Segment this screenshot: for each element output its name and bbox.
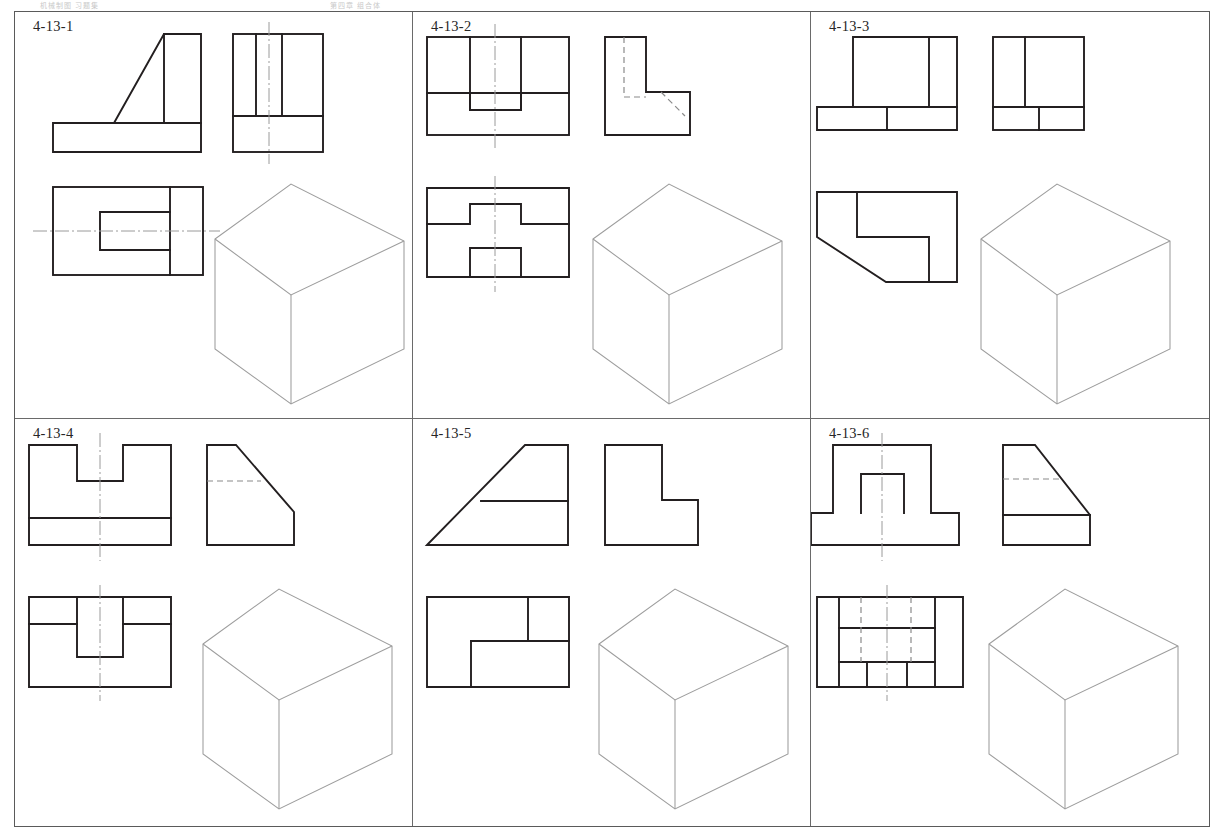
isometric-construction-box-4-13-3 bbox=[981, 184, 1170, 404]
scan-header-left: 机械制图 习题集 bbox=[40, 0, 99, 10]
side-view-4-13-4 bbox=[207, 445, 294, 545]
worksheet-sheet: 4-13-1 bbox=[14, 11, 1210, 827]
exercise-drawing-4-13-1 bbox=[15, 12, 412, 418]
scan-header: 机械制图 习题集 第四章 组合体 bbox=[0, 0, 1224, 11]
side-view-4-13-5 bbox=[605, 445, 698, 545]
isometric-construction-box-4-13-5 bbox=[599, 589, 788, 809]
hidden-line-diagonal bbox=[661, 92, 685, 116]
exercise-cell-4-13-1[interactable]: 4-13-1 bbox=[15, 12, 413, 419]
exercise-drawing-4-13-2 bbox=[413, 12, 810, 418]
scan-header-right: 第四章 组合体 bbox=[330, 0, 381, 10]
side-view-4-13-6 bbox=[1003, 445, 1090, 545]
side-view-4-13-1 bbox=[233, 22, 323, 164]
exercise-drawing-4-13-6 bbox=[811, 419, 1209, 826]
top-view-4-13-5 bbox=[427, 597, 569, 687]
side-view-4-13-2 bbox=[605, 37, 690, 135]
exercise-drawing-4-13-4 bbox=[15, 419, 412, 826]
side-view-4-13-3 bbox=[993, 37, 1084, 130]
exercise-grid: 4-13-1 bbox=[15, 12, 1209, 826]
front-view-4-13-6 bbox=[811, 433, 959, 561]
top-view-4-13-2 bbox=[427, 176, 569, 292]
exercise-cell-4-13-6[interactable]: 4-13-6 bbox=[811, 419, 1209, 826]
exercise-drawing-4-13-5 bbox=[413, 419, 810, 826]
exercise-drawing-4-13-3 bbox=[811, 12, 1209, 418]
exercise-cell-4-13-2[interactable]: 4-13-2 bbox=[413, 12, 811, 419]
isometric-construction-box-4-13-2 bbox=[593, 184, 782, 404]
top-view-4-13-6 bbox=[817, 585, 963, 701]
isometric-construction-box-4-13-4 bbox=[203, 589, 392, 809]
top-view-4-13-4 bbox=[29, 585, 171, 701]
isometric-construction-box-4-13-1 bbox=[215, 184, 404, 404]
exercise-cell-4-13-5[interactable]: 4-13-5 bbox=[413, 419, 811, 826]
exercise-cell-4-13-3[interactable]: 4-13-3 bbox=[811, 12, 1209, 419]
front-view-4-13-4 bbox=[29, 433, 171, 561]
front-view-4-13-1 bbox=[53, 34, 201, 152]
exercise-cell-4-13-4[interactable]: 4-13-4 bbox=[15, 419, 413, 826]
front-view-4-13-2 bbox=[427, 24, 569, 150]
top-view-4-13-3 bbox=[817, 192, 957, 282]
front-view-4-13-5 bbox=[427, 445, 568, 545]
top-view-4-13-1 bbox=[33, 187, 220, 275]
front-view-4-13-3 bbox=[817, 37, 957, 130]
isometric-construction-box-4-13-6 bbox=[989, 589, 1178, 809]
